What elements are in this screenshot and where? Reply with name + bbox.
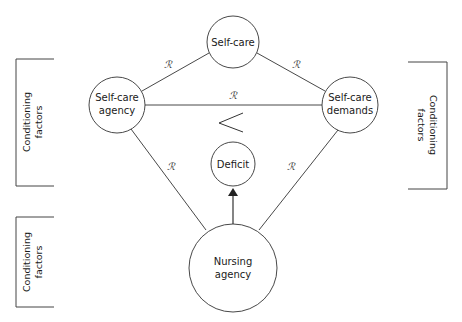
node-self-care-agency-label-line2: agency xyxy=(99,105,135,116)
node-self-care-demands: Self-care demands xyxy=(322,77,378,133)
node-deficit-label: Deficit xyxy=(217,159,249,170)
conditioning-left-bottom-line2: factors xyxy=(33,246,44,279)
relation-label-agency-nursing: ℛ xyxy=(167,161,176,172)
node-self-care-label: Self-care xyxy=(211,37,255,48)
node-self-care-demands-label-line2: demands xyxy=(327,105,373,116)
node-self-care-demands-label-line1: Self-care xyxy=(328,92,372,103)
conditioning-left-top-line1: Conditioning xyxy=(21,92,32,152)
relation-label-demands-nursing: ℛ xyxy=(287,161,296,172)
relation-label-agency-demands: ℛ xyxy=(229,90,238,101)
conditioning-left-top-line2: factors xyxy=(33,106,44,139)
conditioning-right-line1: Conditioning xyxy=(428,95,439,155)
conditioning-factors-left-bottom: Conditioning factors xyxy=(16,217,54,307)
edge-agency-to-nursing xyxy=(131,129,206,230)
less-than-symbol xyxy=(219,113,243,132)
conditioning-left-bottom-line1: Conditioning xyxy=(21,232,32,292)
conditioning-factors-right: Conditioning factors xyxy=(408,62,447,189)
conditioning-factors-left-top: Conditioning factors xyxy=(16,59,54,186)
conditioning-right-line2: factors xyxy=(416,109,427,142)
edge-selfcare-to-demands xyxy=(257,53,325,91)
node-nursing-agency-label-line2: agency xyxy=(215,269,251,280)
node-nursing-agency-label-line1: Nursing xyxy=(214,256,253,267)
node-self-care: Self-care xyxy=(207,16,259,68)
node-nursing-agency: Nursing agency xyxy=(189,224,277,312)
node-self-care-agency: Self-care agency xyxy=(89,77,145,133)
node-deficit: Deficit xyxy=(211,142,255,186)
edge-demands-to-nursing xyxy=(259,130,338,230)
relation-label-agency-selfcare: ℛ xyxy=(164,59,173,70)
node-self-care-agency-label-line1: Self-care xyxy=(95,92,139,103)
edge-agency-to-selfcare xyxy=(142,53,209,91)
self-care-deficit-diagram: ℛ ℛ ℛ ℛ ℛ Self-care Self-care agency Sel… xyxy=(0,0,462,322)
relation-label-selfcare-demands: ℛ xyxy=(292,59,301,70)
